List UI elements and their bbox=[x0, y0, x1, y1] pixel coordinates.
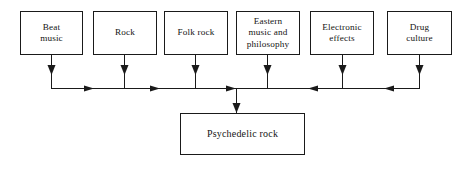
result-arrowhead bbox=[233, 103, 241, 113]
node-label-psychedelic-rock: Psychedelic rock bbox=[207, 128, 278, 140]
bus-arrow-right-2 bbox=[150, 86, 160, 92]
drop-arrow-eastern-music bbox=[264, 65, 272, 75]
node-rock[interactable]: Rock bbox=[93, 11, 157, 55]
bus-arrow-right-1 bbox=[84, 86, 94, 92]
node-eastern-music-and-philosophy[interactable]: Eastern music and philosophy bbox=[236, 11, 300, 55]
drop-arrowheads bbox=[48, 65, 424, 75]
node-label-beat-music: Beat music bbox=[40, 22, 63, 44]
node-beat-music[interactable]: Beat music bbox=[20, 11, 83, 55]
bus-arrow-left-1 bbox=[308, 86, 318, 92]
node-label-folk-rock: Folk rock bbox=[178, 27, 215, 38]
node-electronic-effects[interactable]: Electronic effects bbox=[310, 11, 374, 55]
drop-arrow-folk-rock bbox=[192, 65, 200, 75]
node-label-rock: Rock bbox=[115, 27, 135, 38]
node-label-eastern-music-and-philosophy: Eastern music and philosophy bbox=[247, 16, 289, 50]
node-drug-culture[interactable]: Drug culture bbox=[387, 11, 452, 55]
drop-arrow-drug-culture bbox=[416, 65, 424, 75]
drop-arrow-electronic-effects bbox=[339, 65, 347, 75]
node-label-electronic-effects: Electronic effects bbox=[322, 22, 361, 44]
bus-arrow-right-3 bbox=[226, 86, 236, 92]
flow-chart-diagram: Beat music Rock Folk rock Eastern music … bbox=[0, 0, 475, 172]
drop-arrow-beat-music bbox=[48, 65, 56, 75]
arrow-into-psychedelic-rock bbox=[233, 103, 241, 113]
bus-arrow-left-2 bbox=[384, 86, 394, 92]
drop-arrow-rock bbox=[121, 65, 129, 75]
node-label-drug-culture: Drug culture bbox=[406, 22, 433, 44]
node-psychedelic-rock[interactable]: Psychedelic rock bbox=[180, 113, 305, 155]
node-folk-rock[interactable]: Folk rock bbox=[164, 11, 228, 55]
